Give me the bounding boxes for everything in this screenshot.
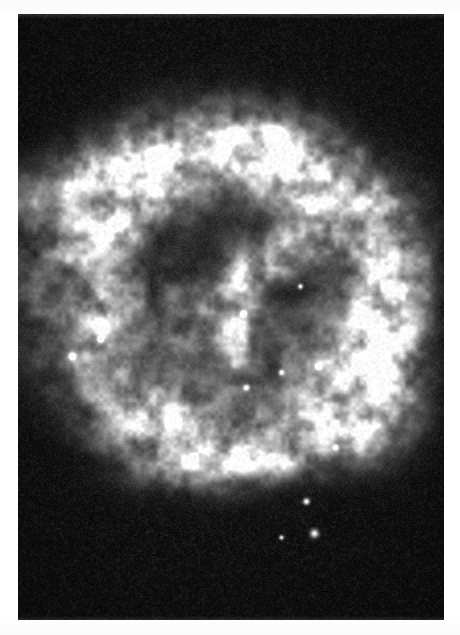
page-canvas (0, 0, 460, 635)
page-margin-left (0, 0, 18, 635)
supernova-remnant-image (18, 14, 444, 620)
page-margin-right (444, 0, 460, 635)
photographic-plate (18, 14, 444, 620)
page-margin-top (0, 0, 460, 14)
page-margin-bottom (0, 620, 460, 635)
